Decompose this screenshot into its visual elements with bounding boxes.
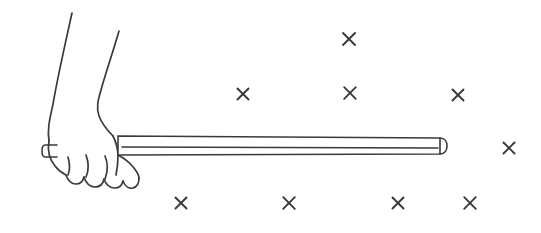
finger-index <box>123 178 139 188</box>
magnetic-field-into-page-marker <box>343 33 355 45</box>
knuckle-crease-1 <box>68 157 70 175</box>
magnetic-field-into-page-marker <box>344 87 356 99</box>
rod-group <box>118 136 447 155</box>
magnetic-field-into-page-marker <box>504 143 515 154</box>
magnetic-field-into-page-marker <box>453 90 464 101</box>
forearm-inner-contour <box>98 31 119 136</box>
arm-group <box>48 13 119 141</box>
magnetic-field-into-page-marker <box>176 198 187 209</box>
magnetic-field-into-page-marker <box>464 197 476 209</box>
rod-inner-highlight-line <box>122 147 438 148</box>
grip-lower-edge <box>118 155 139 178</box>
magnetic-field-into-page-marker <box>283 197 295 209</box>
knuckle-crease-3 <box>105 156 107 179</box>
forearm-outer-contour <box>48 13 72 141</box>
finger-middle <box>104 179 123 188</box>
finger-pinky <box>66 175 84 184</box>
magnetic-field-into-page-marker <box>238 89 249 100</box>
rod-right-end-cap <box>440 138 447 154</box>
physics-figure <box>0 0 541 233</box>
figure-canvas <box>0 0 541 233</box>
magnetic-field-marker-group <box>176 33 515 209</box>
rod-body <box>118 136 440 155</box>
finger-ring <box>84 177 104 187</box>
hand-outline-palm-edge <box>48 141 66 175</box>
knuckle-crease-2 <box>86 155 88 177</box>
magnetic-field-into-page-marker <box>393 198 404 209</box>
